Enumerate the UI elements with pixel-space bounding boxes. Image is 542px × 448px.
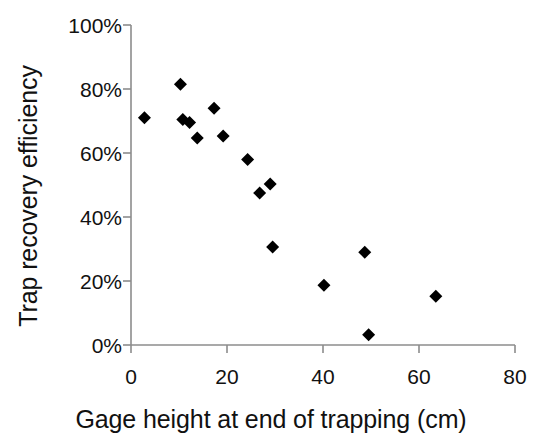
data-point-marker <box>208 102 221 115</box>
data-point-marker <box>191 131 204 144</box>
data-point-marker <box>241 153 254 166</box>
data-point-marker <box>217 130 230 143</box>
data-point-marker <box>317 279 330 292</box>
data-point-marker <box>253 187 266 200</box>
data-point-marker <box>429 290 442 303</box>
plot-area <box>0 0 542 448</box>
data-point-marker <box>358 246 371 259</box>
axes <box>131 25 515 345</box>
axis-ticks <box>123 25 515 353</box>
data-point-marker <box>362 328 375 341</box>
data-point-marker <box>264 178 277 191</box>
data-point-marker <box>138 111 151 124</box>
data-point-marker <box>174 78 187 91</box>
scatter-chart-figure: Trap recovery efficiency 100% 80% 60% 40… <box>0 0 542 448</box>
data-point-markers <box>138 78 442 342</box>
data-point-marker <box>266 241 279 254</box>
x-axis-title: Gage height at end of trapping (cm) <box>0 405 542 434</box>
